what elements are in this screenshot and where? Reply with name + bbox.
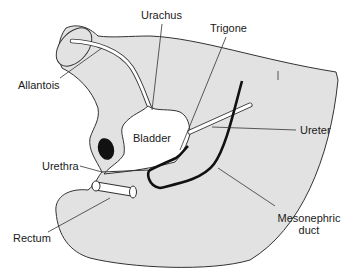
label-ureter: Ureter [300,124,331,136]
label-mesonephric-line1: Mesonephric [276,212,342,224]
label-mesonephric-duct: Mesonephric duct [276,212,342,236]
label-trigone: Trigone [210,22,247,34]
label-urachus: Urachus [141,9,182,21]
label-mesonephric-line2: duct [276,224,342,236]
diagram-drawing [0,0,354,280]
label-rectum: Rectum [13,232,51,244]
diagram: Urachus Trigone Allantois Bladder Ureter… [0,0,354,280]
label-urethra: Urethra [42,160,79,172]
label-allantois: Allantois [18,79,60,91]
label-bladder: Bladder [133,132,171,144]
leader-urethra [80,166,102,172]
